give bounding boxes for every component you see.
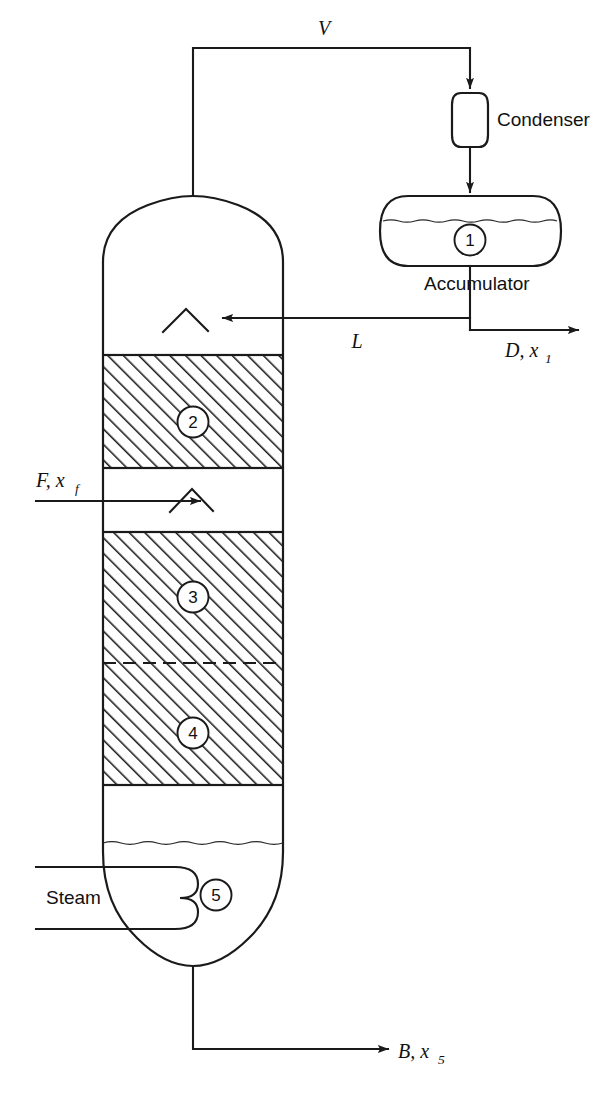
vapor-stream-label: V — [318, 17, 333, 39]
tag-accumulator: 1 — [465, 231, 474, 250]
overhead-vapor-line — [193, 48, 470, 196]
svg-text:3: 3 — [188, 588, 197, 607]
svg-text:D, x: D, x — [504, 339, 538, 361]
tag-sump-5: 5 — [201, 880, 232, 911]
svg-text:5: 5 — [438, 1052, 445, 1067]
tag-section-3: 3 — [178, 582, 209, 613]
accumulator-label: Accumulator — [424, 273, 530, 294]
svg-text:B, x: B, x — [398, 1040, 429, 1062]
reflux-stream-label: L — [350, 330, 362, 352]
distillate-stream-label: D, x 1 — [504, 339, 552, 366]
bottoms-stream-label: B, x 5 — [398, 1040, 445, 1067]
svg-text:4: 4 — [188, 724, 197, 743]
svg-text:F, x: F, x — [35, 469, 65, 491]
tag-section-4: 4 — [178, 718, 209, 749]
bottoms-line — [193, 966, 388, 1049]
condenser-vessel — [452, 93, 488, 147]
flowsheet-canvas: V Condenser 1 Accumulator L D, x — [0, 0, 607, 1106]
condenser — [452, 93, 488, 147]
condenser-label: Condenser — [497, 109, 591, 130]
process-flow-diagram: V Condenser 1 Accumulator L D, x — [0, 0, 607, 1106]
accumulator: 1 — [380, 196, 561, 266]
svg-text:1: 1 — [545, 351, 552, 366]
feed-stream-label: F, x f — [35, 469, 81, 496]
svg-text:2: 2 — [188, 413, 197, 432]
svg-text:5: 5 — [211, 886, 220, 905]
svg-text:f: f — [75, 481, 81, 496]
steam-label: Steam — [46, 887, 101, 908]
tag-section-2: 2 — [178, 407, 209, 438]
